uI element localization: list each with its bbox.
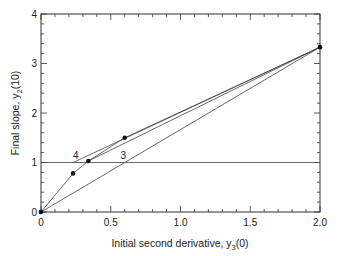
x-tick-label: 0.5 [104, 217, 118, 228]
y-tick-label: 3 [31, 58, 37, 69]
data-point [318, 45, 323, 50]
x-tick-label: 1.5 [243, 217, 257, 228]
series-line [88, 47, 320, 161]
y-axis-label: Final slope, y2(10) [9, 71, 24, 156]
x-axis-label: Initial second derivative, y3(0) [111, 237, 248, 252]
series-line [41, 47, 320, 212]
y-tick-label: 0 [31, 207, 37, 218]
data-point [86, 159, 91, 164]
x-tick-label: 0 [38, 217, 44, 228]
plot-axes: 00.51.01.52.001234 [31, 9, 327, 229]
plot-lines [41, 47, 320, 212]
y-tick-label: 4 [31, 9, 37, 20]
chart: 00.51.01.52.001234 43 Initial second der… [0, 0, 339, 256]
data-point [71, 171, 76, 176]
line-annotation: 4 [73, 150, 79, 161]
series-line [73, 47, 320, 162]
x-tick-label: 1.0 [174, 217, 188, 228]
x-tick-label: 2.0 [313, 217, 327, 228]
y-tick-label: 2 [31, 108, 37, 119]
y-tick-label: 1 [31, 157, 37, 168]
data-point [122, 135, 127, 140]
line-annotation: 3 [121, 150, 127, 161]
data-point [39, 210, 44, 215]
plot-frame [41, 14, 320, 212]
